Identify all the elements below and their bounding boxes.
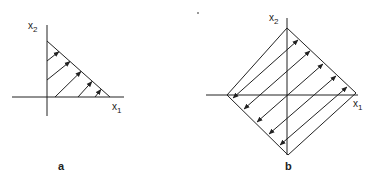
arrow (47, 52, 59, 62)
x2-axis-label: x2 (28, 20, 38, 34)
x1-axis-label: x1 (112, 101, 122, 115)
panel-a: x2 x1 a (12, 20, 124, 172)
panel-label-b: b (285, 160, 292, 172)
arrow-group-a (47, 52, 101, 98)
arrow (95, 90, 101, 98)
double-arrow (257, 64, 323, 122)
diagram-canvas: x2 x1 a x2 x1 b (0, 0, 372, 179)
arrow-group-b (233, 40, 347, 145)
triangle-hypotenuse (47, 41, 110, 97)
x1-axis-label: x1 (353, 98, 363, 112)
speck (197, 12, 199, 14)
panel-label-a: a (58, 160, 65, 172)
double-arrow (233, 40, 298, 98)
arrow (78, 82, 92, 98)
arrow (47, 62, 70, 81)
x2-axis-label: x2 (269, 12, 279, 26)
panel-b: x2 x1 b (197, 12, 363, 172)
arrow (55, 72, 81, 98)
